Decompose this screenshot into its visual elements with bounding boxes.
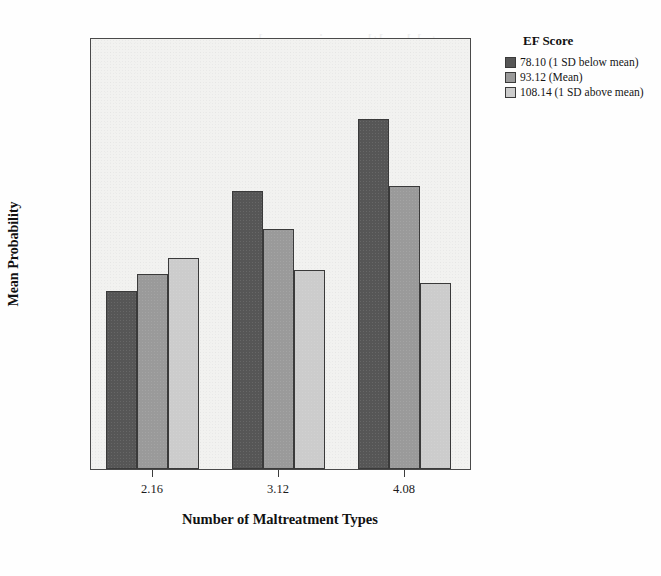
legend-swatch-icon-2 bbox=[505, 87, 516, 98]
bar-g0-s2 bbox=[168, 258, 199, 469]
x-axis-title: Number of Maltreatment Types bbox=[182, 511, 378, 528]
bar-g1-s2 bbox=[294, 270, 325, 469]
legend-label-0: 78.10 (1 SD below mean) bbox=[520, 55, 639, 69]
legend: EF Score 78.10 (1 SD below mean) 93.12 (… bbox=[505, 33, 657, 100]
bar-g2-s0 bbox=[358, 119, 389, 469]
legend-title: EF Score bbox=[523, 33, 657, 49]
x-tick-mark-2 bbox=[404, 470, 405, 477]
bar-g2-s1 bbox=[389, 186, 420, 469]
legend-swatch-icon-0 bbox=[505, 57, 516, 68]
legend-label-2: 108.14 (1 SD above mean) bbox=[520, 85, 644, 99]
legend-label-1: 93.12 (Mean) bbox=[520, 70, 583, 84]
x-tick-label-0: 2.16 bbox=[141, 482, 163, 497]
legend-item-2: 108.14 (1 SD above mean) bbox=[505, 85, 657, 99]
legend-item-0: 78.10 (1 SD below mean) bbox=[505, 55, 657, 69]
plot-area bbox=[90, 38, 471, 470]
y-axis: Mean Probability 1.00 .80 .60 .40 .20 .0… bbox=[0, 0, 90, 576]
bar-g0-s1 bbox=[137, 274, 168, 469]
x-tick-label-2: 4.08 bbox=[393, 482, 415, 497]
chart-figure: mental health service needs supporting a… bbox=[0, 0, 661, 576]
legend-swatch-icon-1 bbox=[505, 72, 516, 83]
x-tick-mark-0 bbox=[152, 470, 153, 477]
x-tick-label-1: 3.12 bbox=[267, 482, 289, 497]
bar-g1-s0 bbox=[232, 191, 263, 469]
bar-g0-s0 bbox=[106, 291, 137, 469]
bar-g2-s2 bbox=[420, 283, 451, 469]
x-tick-mark-1 bbox=[278, 470, 279, 477]
legend-item-1: 93.12 (Mean) bbox=[505, 70, 657, 84]
y-axis-title: Mean Probability bbox=[6, 201, 22, 306]
bar-g1-s1 bbox=[263, 229, 294, 469]
